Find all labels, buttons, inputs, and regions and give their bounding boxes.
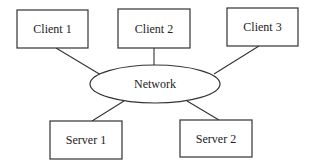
client-1-label: Client 1 [33,22,71,36]
node-client-3: Client 3 [227,8,298,46]
node-network: Network [90,65,220,103]
edge-client3-network [214,46,259,74]
node-client-2: Client 2 [118,9,190,48]
client-2-label: Client 2 [135,22,173,36]
network-label: Network [134,77,176,91]
node-server-2: Server 2 [180,120,252,157]
server-2-label: Server 2 [196,132,236,146]
node-client-1: Client 1 [17,10,88,48]
edge-server1-network [92,101,124,121]
network-diagram: Client 1 Client 2 Client 3 Network Serve… [0,0,312,168]
client-3-label: Client 3 [243,20,281,34]
edge-client1-network [56,48,101,75]
server-1-label: Server 1 [66,133,106,147]
edge-server2-network [187,101,219,120]
node-server-1: Server 1 [50,121,122,159]
